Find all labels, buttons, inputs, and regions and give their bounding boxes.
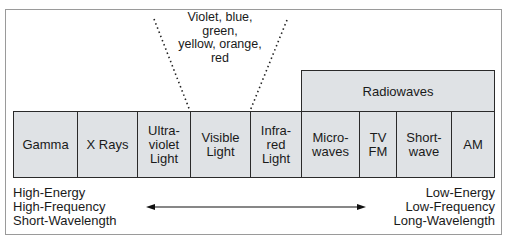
arrow-right-icon bbox=[357, 204, 366, 210]
spectrum-band-cell: Infra- red Light bbox=[250, 111, 302, 178]
low-energy-label: Low-Energy Low-Frequency Long-Wavelength bbox=[394, 186, 495, 228]
high-energy-label: High-Energy High-Frequency Short-Wavelen… bbox=[13, 186, 117, 228]
visible-colors-note: Violet, blue, green, yellow, orange, red bbox=[170, 11, 270, 65]
spectrum-band-cell: TV FM bbox=[359, 111, 397, 178]
radiowaves-group-label: Radiowaves bbox=[301, 70, 495, 112]
spectrum-band-cell: Gamma bbox=[13, 111, 78, 178]
spectrum-band-cell: Micro- waves bbox=[301, 111, 360, 178]
spectrum-band-cell: X Rays bbox=[77, 111, 138, 178]
spectrum-band-cell: AM bbox=[451, 111, 495, 178]
spectrum-band-cell: Ultra- violet Light bbox=[137, 111, 191, 178]
arrow-left-icon bbox=[146, 204, 155, 210]
spectrum-band-cell: Visible Light bbox=[190, 111, 251, 178]
spectrum-band-cell: Short- wave bbox=[396, 111, 452, 178]
